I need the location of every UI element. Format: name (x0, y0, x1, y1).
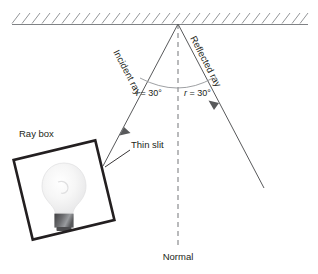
thin-slit-label: Thin slit (131, 139, 164, 150)
angle-of-incidence-label: i = 30° (136, 88, 162, 98)
normal-label: Normal (163, 251, 194, 262)
light-bulb (27, 153, 102, 241)
reflection-diagram: Thin slit Ray box Normal Incident ray Re… (0, 0, 318, 274)
angle-of-reflection-value: = 30° (187, 88, 211, 98)
angle-of-reflection-label: r = 30° (184, 88, 211, 98)
mirror-surface (12, 13, 308, 25)
angle-of-incidence-value: = 30° (138, 88, 162, 98)
reflected-ray-line (178, 24, 264, 188)
ray-box-label: Ray box (19, 128, 54, 139)
mirror-hatching (12, 13, 308, 24)
angle-arc (140, 78, 213, 88)
reflected-ray (178, 24, 264, 188)
diagram-canvas: Thin slit Ray box Normal Incident ray Re… (0, 0, 318, 274)
bulb-glass (42, 163, 86, 213)
reflected-ray-label: Reflected ray (188, 34, 224, 89)
thin-slit-leader (105, 150, 130, 167)
reflected-ray-arrowhead (209, 101, 220, 111)
bulb-base (54, 214, 73, 228)
ray-box (14, 140, 116, 243)
